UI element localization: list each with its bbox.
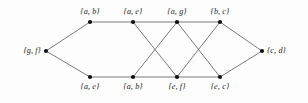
node-label: {a, e}: [124, 8, 143, 16]
graph-node: [131, 20, 135, 24]
node-label: {g, f}: [23, 47, 41, 55]
graph-node: [88, 75, 92, 79]
graph-edge: [220, 22, 262, 51]
graph-canvas: [0, 0, 308, 103]
graph-figure: {g, f}{a, b}{a, e}{a, g}{b, c}{a, e}{a, …: [0, 0, 308, 103]
graph-node: [260, 49, 264, 53]
graph-node: [218, 75, 222, 79]
node-label: {a, b}: [123, 83, 142, 91]
graph-node: [175, 75, 179, 79]
graph-node: [218, 20, 222, 24]
graph-node: [175, 20, 179, 24]
node-label: {a, b}: [80, 8, 99, 16]
node-label: {e, f}: [168, 83, 185, 91]
edge-layer: [46, 22, 262, 77]
node-label: {a, e}: [81, 83, 100, 91]
graph-edge: [46, 51, 90, 77]
node-label: {a, g}: [167, 8, 186, 16]
graph-node: [131, 75, 135, 79]
node-label: {e, c}: [211, 83, 230, 91]
graph-edge: [46, 22, 90, 51]
node-label: {c, d}: [267, 47, 286, 55]
graph-node: [44, 49, 48, 53]
node-label: {b, c}: [211, 8, 230, 16]
graph-edge: [220, 51, 262, 77]
graph-node: [88, 20, 92, 24]
